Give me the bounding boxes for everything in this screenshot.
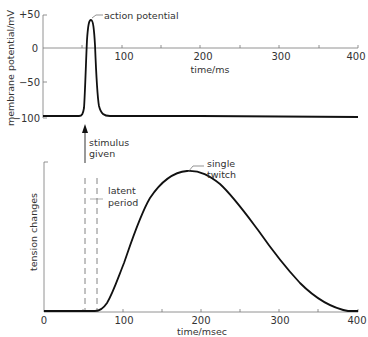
x-tick-label: 400 [346, 51, 365, 62]
x-tick-label: 200 [193, 51, 212, 62]
y-tick-label: +50 [19, 9, 40, 20]
y-axis-label: tension changes [28, 193, 39, 271]
stimulus-marker: stimulus given [82, 124, 129, 163]
muscle-twitch-figure: +50 0 −50 −100 100 200 300 400 time/ms m… [0, 0, 368, 337]
latent-period-label: period [108, 197, 138, 208]
single-twitch-label: single [207, 158, 235, 169]
single-twitch-label: twitch [207, 169, 236, 180]
x-axis-label: time/ms [191, 64, 230, 75]
x-tick-label: 100 [114, 51, 133, 62]
x-tick-label: 400 [347, 315, 366, 326]
x-tick-label: 300 [271, 51, 290, 62]
arrow-up-icon [82, 124, 88, 133]
membrane-potential-chart: +50 0 −50 −100 100 200 300 400 time/ms m… [5, 9, 366, 126]
x-tick-label: 100 [114, 315, 133, 326]
stimulus-label: stimulus [89, 137, 129, 148]
y-tick-label: −100 [13, 113, 40, 124]
x-tick-label: 300 [270, 315, 289, 326]
stimulus-label: given [89, 148, 115, 159]
tension-chart: 0 100 200 300 400 time/msec tension chan… [28, 158, 367, 337]
y-axis-label: membrane potential/mV [5, 9, 16, 126]
x-tick-label: 200 [191, 315, 210, 326]
y-tick-label: −50 [19, 77, 40, 88]
latent-period-label: latent [108, 185, 136, 196]
x-axis-label: time/msec [177, 326, 227, 337]
twitch-curve [44, 171, 358, 311]
y-tick-label: 0 [32, 43, 38, 54]
x-tick-label: 0 [41, 315, 47, 326]
action-potential-label: action potential [104, 10, 179, 21]
